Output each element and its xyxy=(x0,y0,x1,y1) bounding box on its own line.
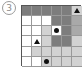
triangle-icon xyxy=(34,39,40,44)
grid-cell-3-0 xyxy=(22,36,32,46)
grid-cell-1-0 xyxy=(22,16,32,26)
grid-cell-3-3 xyxy=(52,36,62,46)
problem-number: 3 xyxy=(2,1,16,15)
grid-cell-2-5 xyxy=(72,26,82,36)
grid-cell-4-0 xyxy=(22,47,32,57)
grid-cell-4-3 xyxy=(52,47,62,57)
marker-triangle xyxy=(32,36,41,45)
grid-cell-2-3 xyxy=(52,26,62,36)
grid-cell-4-2 xyxy=(42,47,52,57)
marker-triangle xyxy=(72,6,82,15)
grid-cell-5-0 xyxy=(22,57,32,67)
grid-cell-5-4 xyxy=(62,57,72,67)
grid-cell-3-4 xyxy=(62,36,72,46)
grid-cell-0-3 xyxy=(52,6,62,16)
grid-cell-5-5 xyxy=(72,57,82,67)
grid-cell-0-0 xyxy=(22,6,32,16)
grid-cell-1-2 xyxy=(42,16,52,26)
triangle-icon xyxy=(74,8,80,13)
grid-board xyxy=(21,5,81,66)
grid-cell-2-0 xyxy=(22,26,32,36)
grid-cell-1-4 xyxy=(62,16,72,26)
grid-cell-2-2 xyxy=(42,26,52,36)
dot-icon xyxy=(54,28,59,33)
grid-cell-5-1 xyxy=(32,57,42,67)
grid-cell-0-4 xyxy=(62,6,72,16)
grid-cell-4-5 xyxy=(72,47,82,57)
grid-cell-3-5 xyxy=(72,36,82,46)
marker-dot xyxy=(42,57,51,66)
grid-cell-0-1 xyxy=(32,6,42,16)
grid-cell-0-5 xyxy=(72,6,82,16)
dot-icon xyxy=(44,59,49,64)
grid-cell-0-2 xyxy=(42,6,52,16)
grid-cell-5-2 xyxy=(42,57,52,67)
grid-cell-2-1 xyxy=(32,26,42,36)
grid-cell-1-5 xyxy=(72,16,82,26)
grid-cell-1-3 xyxy=(52,16,62,26)
marker-dot xyxy=(52,26,61,35)
grid-cell-5-3 xyxy=(52,57,62,67)
grid-cell-2-4 xyxy=(62,26,72,36)
grid-cell-4-1 xyxy=(32,47,42,57)
grid-cell-3-2 xyxy=(42,36,52,46)
grid-cell-4-4 xyxy=(62,47,72,57)
grid-cell-3-1 xyxy=(32,36,42,46)
grid-cell-1-1 xyxy=(32,16,42,26)
